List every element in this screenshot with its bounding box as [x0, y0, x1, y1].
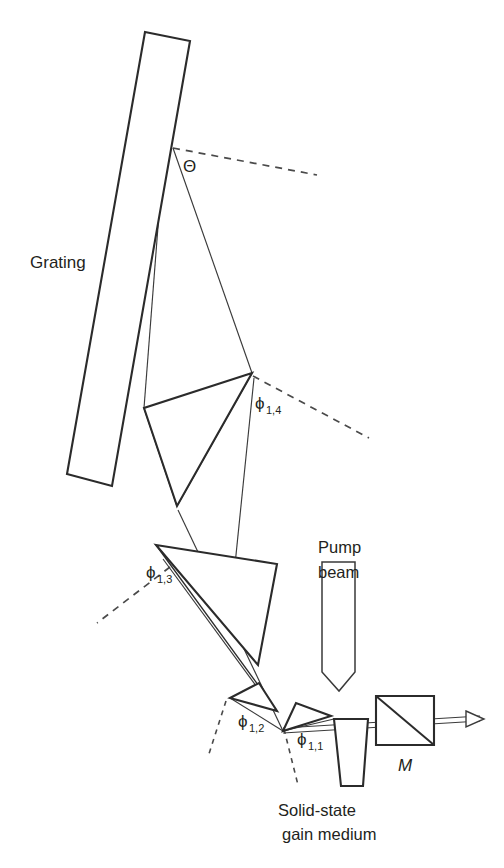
- phi-1-1-subscript: 1,1: [308, 740, 323, 752]
- phi-1-3-symbol: ϕ: [146, 563, 156, 582]
- prism-3-element[interactable]: [156, 545, 277, 665]
- gain-medium-element[interactable]: [334, 719, 368, 786]
- prism-2-element[interactable]: [230, 683, 277, 711]
- grating-label: Grating: [30, 253, 86, 272]
- phi-1-2-label: ϕ 1,2: [238, 712, 264, 734]
- optical-diagram: Grating Θ ϕ 1,4 ϕ 1,3 ϕ 1,2 ϕ 1,1 M Pump…: [0, 0, 504, 868]
- phi-1-4-subscript: 1,4: [266, 404, 281, 416]
- theta-angle-label: Θ: [183, 157, 196, 176]
- phi12-reference-line: [208, 701, 226, 757]
- optics-canvas: Grating Θ ϕ 1,4 ϕ 1,3 ϕ 1,2 ϕ 1,1 M Pump…: [0, 0, 504, 868]
- phi11-reference-line: [284, 729, 298, 785]
- phi-1-1-symbol: ϕ: [297, 730, 307, 749]
- prism-4-element[interactable]: [144, 373, 252, 506]
- phi-1-1-label: ϕ 1,1: [297, 730, 323, 752]
- gain-medium-label-line2: gain medium: [282, 825, 376, 843]
- phi-1-2-symbol: ϕ: [238, 712, 248, 731]
- output-beam-arrowhead-icon: [466, 711, 484, 727]
- phi-1-4-label: ϕ 1,4: [255, 394, 281, 416]
- phi-1-4-symbol: ϕ: [255, 394, 265, 413]
- pump-beam-arrow: [322, 562, 355, 691]
- phi-1-3-subscript: 1,3: [157, 573, 172, 585]
- gain-medium-label-line1: Solid-state: [278, 801, 356, 819]
- pump-beam-label-line2: beam: [318, 563, 359, 581]
- ray-grating-to-prism4-apex: [173, 148, 252, 373]
- mirror-m-label: M: [398, 756, 413, 775]
- pump-beam-label-line1: Pump: [318, 538, 361, 556]
- phi-1-2-subscript: 1,2: [249, 722, 264, 734]
